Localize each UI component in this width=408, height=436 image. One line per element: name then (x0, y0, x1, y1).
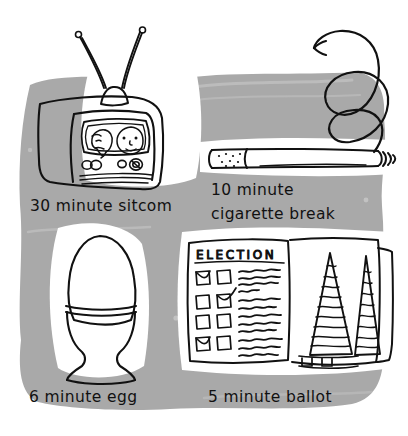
caption-cigarette-line-1: 10 minute (211, 181, 294, 199)
hand-drawn-illustration: 30 minute sitcom (0, 0, 408, 436)
caption-cigarette-line-2: cigarette break (211, 205, 335, 223)
caption-ballot: 5 minute ballot (208, 388, 332, 406)
ballot-header-text: ELECTION (196, 248, 276, 262)
caption-egg: 6 minute egg (29, 388, 137, 406)
illustration-canvas: 30 minute sitcom (0, 0, 408, 436)
caption-sitcom: 30 minute sitcom (30, 197, 172, 215)
